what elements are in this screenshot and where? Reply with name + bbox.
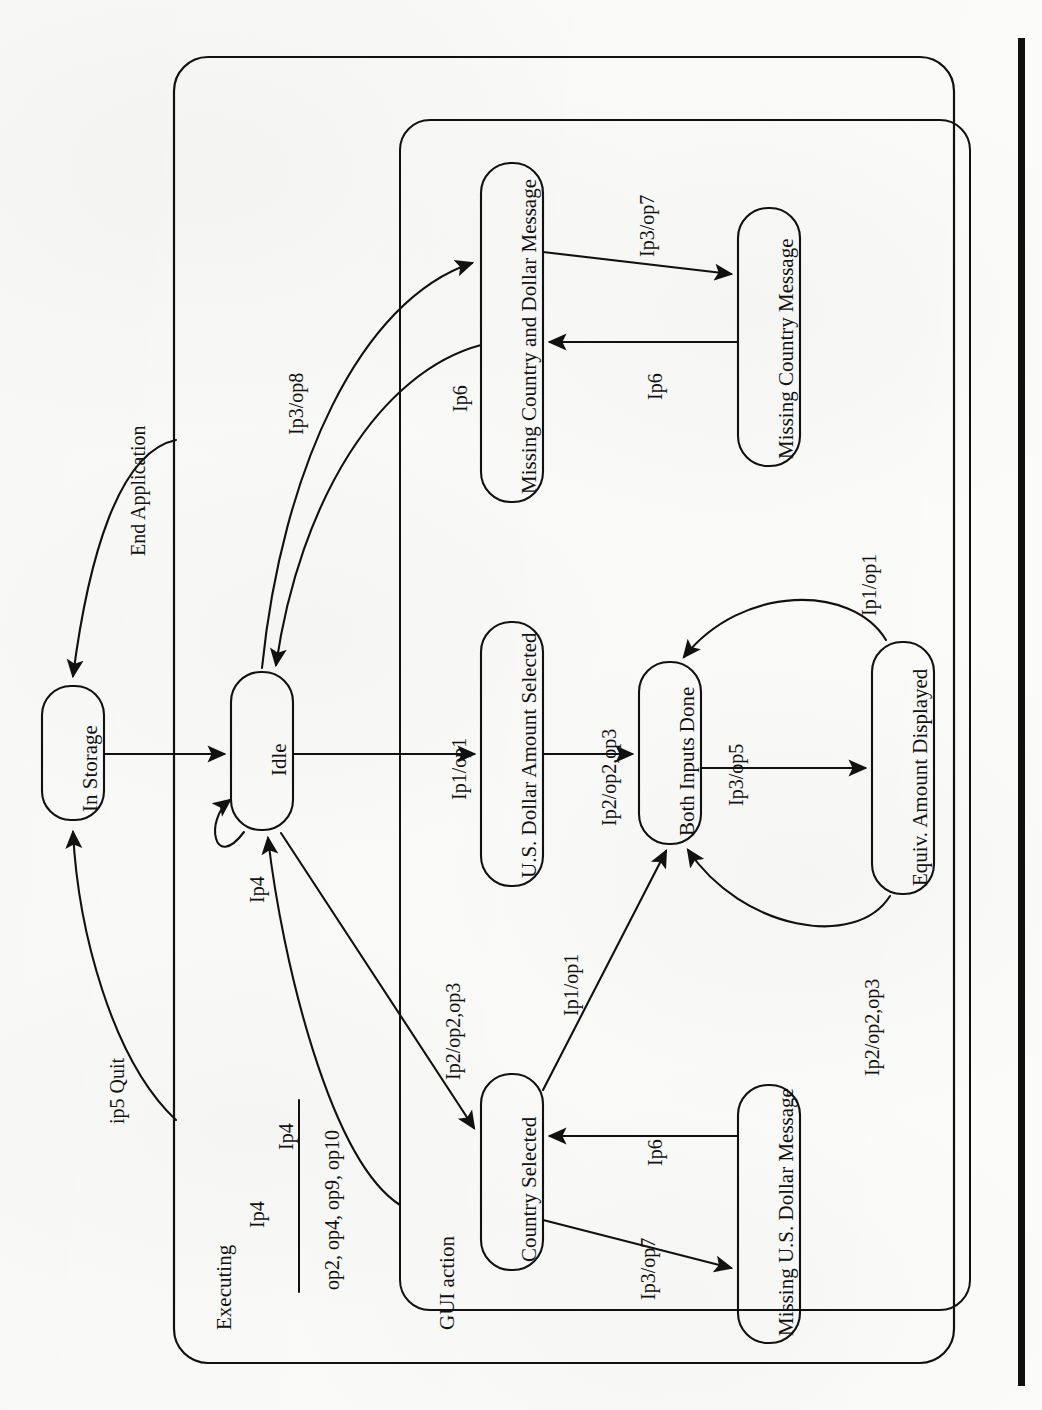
state-label-in-storage: In Storage bbox=[80, 725, 101, 812]
edge-label-missing-country-dollar-to-idle: Ip6 bbox=[450, 385, 470, 412]
state-label-usd-amount: U.S. Dollar Amount Selected bbox=[519, 632, 540, 878]
edge-label-ip5-quit: ip5 Quit bbox=[107, 1058, 127, 1124]
edge-label-usd-to-both: Ip2/op2,op3 bbox=[599, 729, 619, 826]
state-label-equiv-amount: Equiv. Amount Displayed bbox=[910, 669, 931, 886]
region-label-gui-action: GUI action bbox=[437, 1236, 458, 1330]
edge-label-equiv-to-both-lower: Ip2/op2,op3 bbox=[862, 979, 882, 1076]
edge-label-idle-self-loop: Ip4 bbox=[247, 876, 267, 903]
edge-label-end-application: End Application bbox=[128, 425, 148, 556]
edge-label-idle-to-usd: Ip1/op1 bbox=[449, 738, 469, 800]
edge-equiv-to-both-lower bbox=[688, 850, 890, 926]
edge-label-ip4-return: Ip4 bbox=[247, 1201, 267, 1228]
fraction-denominator-outputs: op2, op4, op9, op10 bbox=[322, 1130, 342, 1290]
edge-end-application bbox=[73, 440, 176, 676]
edge-label-country-to-missing-usd: Ip3/op7 bbox=[638, 1238, 658, 1300]
edge-label-country-to-both: Ip1/op1 bbox=[561, 954, 581, 1016]
state-label-idle: Idle bbox=[269, 743, 290, 776]
edge-idle-self-loop bbox=[215, 800, 244, 847]
edge-label-missing-usd-to-country: Ip6 bbox=[645, 1139, 665, 1166]
state-label-missing-country: Missing Country Message bbox=[776, 239, 797, 460]
state-label-both-inputs: Both Inputs Done bbox=[677, 687, 698, 836]
edge-label-equiv-to-both-upper: Ip1/op1 bbox=[859, 554, 879, 616]
edge-label-misscm-to-misscd: Ip6 bbox=[645, 373, 665, 400]
region-label-executing: Executing bbox=[214, 1245, 235, 1330]
state-label-missing-country-dollar: Missing Country and Dollar Message bbox=[519, 179, 540, 494]
edge-idle-to-missing-country-dollar bbox=[262, 263, 472, 668]
edge-label-idle-to-missing-country-dollar: Ip3/op8 bbox=[286, 373, 306, 435]
edge-idle-to-country bbox=[281, 833, 474, 1128]
state-label-country-selected: Country Selected bbox=[519, 1117, 540, 1262]
edge-label-idle-to-country: Ip2/op2,op3 bbox=[443, 983, 463, 1080]
edge-label-both-to-equiv: Ip3/op5 bbox=[726, 744, 746, 806]
diagram-page: Executing GUI action In Storage Idle U.S… bbox=[0, 0, 1042, 1410]
fraction-numerator-ip4: Ip4 bbox=[276, 1123, 296, 1150]
region-executing-border bbox=[174, 57, 954, 1363]
edge-label-misscd-to-misscm: Ip3/op7 bbox=[637, 195, 657, 257]
state-label-missing-usd: Missing U.S. Dollar Message bbox=[776, 1088, 797, 1336]
edge-equiv-to-both-upper bbox=[684, 600, 886, 657]
